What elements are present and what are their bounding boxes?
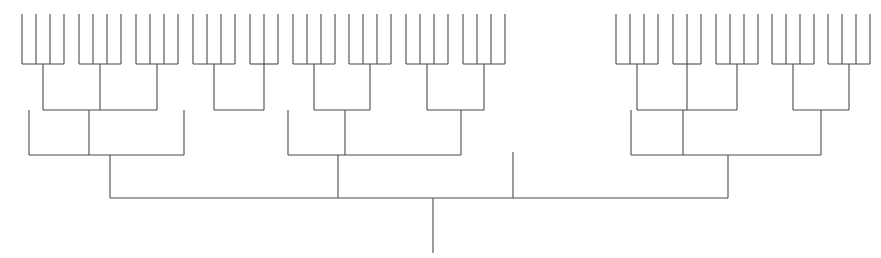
- dendrogram-canvas: [0, 0, 881, 258]
- dendrogram-figure: [0, 0, 881, 258]
- figure-background: [0, 0, 881, 258]
